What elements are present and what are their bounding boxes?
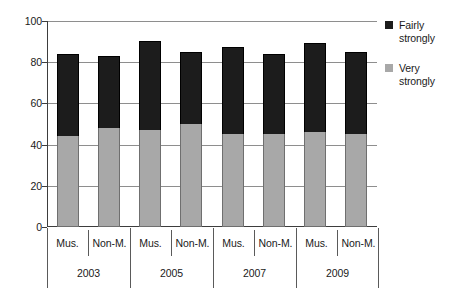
bar-2003-nonm[interactable] — [98, 56, 120, 227]
x-group-label-2003: 2003 — [47, 258, 130, 290]
bar-segment-very-strongly[interactable] — [263, 134, 285, 227]
x-separator-group — [213, 228, 214, 288]
chart-legend: Fairly strongly Very strongly — [385, 19, 463, 105]
bar-segment-very-strongly[interactable] — [98, 128, 120, 227]
bar-segment-fairly-strongly[interactable] — [180, 52, 202, 124]
bar-2009-mus[interactable] — [304, 43, 326, 227]
y-tick-label-100: 100 — [8, 16, 42, 26]
bar-segment-fairly-strongly[interactable] — [57, 54, 79, 136]
bar-segment-very-strongly[interactable] — [345, 134, 367, 227]
x-separator-group — [296, 228, 297, 288]
x-group-label-2009: 2009 — [296, 258, 379, 290]
y-tick-label-80: 80 — [8, 57, 42, 67]
legend-label-line2: strongly — [399, 32, 463, 45]
legend-item-fairly-strongly[interactable]: Fairly strongly — [385, 19, 463, 44]
bar-segment-fairly-strongly[interactable] — [222, 47, 244, 134]
x-axis: Mus. Non-M. Mus. Non-M. Mus. Non-M. Mus.… — [47, 228, 377, 290]
bars-layer — [47, 21, 377, 227]
legend-item-very-strongly[interactable]: Very strongly — [385, 62, 463, 87]
x-label-2003-nonm: Non-M. — [89, 228, 130, 258]
legend-label-line1: Very — [399, 62, 463, 75]
y-tick-label-20: 20 — [8, 181, 42, 191]
y-tick-label-40: 40 — [8, 140, 42, 150]
legend-swatch-icon — [385, 21, 393, 29]
x-label-2009-mus: Mus. — [296, 228, 337, 258]
bar-segment-very-strongly[interactable] — [180, 124, 202, 227]
bar-2009-nonm[interactable] — [345, 52, 367, 227]
bar-2005-mus[interactable] — [139, 41, 161, 227]
x-label-2003-mus: Mus. — [47, 228, 88, 258]
x-group-label-2007: 2007 — [213, 258, 296, 290]
x-axis-category-row: Mus. Non-M. Mus. Non-M. Mus. Non-M. Mus.… — [47, 228, 377, 258]
x-label-2007-mus: Mus. — [213, 228, 254, 258]
x-separator-group — [47, 228, 48, 288]
x-label-2005-mus: Mus. — [130, 228, 171, 258]
y-tick-label-0: 0 — [8, 222, 42, 232]
legend-label-line1: Fairly — [399, 19, 463, 32]
bar-2007-mus[interactable] — [222, 47, 244, 227]
x-separator-group — [130, 228, 131, 288]
bar-segment-very-strongly[interactable] — [222, 134, 244, 227]
y-tick-label-60: 60 — [8, 98, 42, 108]
bar-segment-fairly-strongly[interactable] — [304, 43, 326, 132]
x-label-2007-nonm: Non-M. — [255, 228, 296, 258]
bar-segment-fairly-strongly[interactable] — [98, 56, 120, 128]
legend-swatch-icon — [385, 64, 393, 72]
legend-label-line2: strongly — [399, 75, 463, 88]
x-label-2009-nonm: Non-M. — [338, 228, 379, 258]
bar-segment-very-strongly[interactable] — [57, 136, 79, 227]
x-axis-year-row: 2003 2005 2007 2009 — [47, 258, 377, 290]
stacked-bar-chart: 100 80 60 40 20 0 — [0, 0, 463, 294]
bar-2007-nonm[interactable] — [263, 54, 285, 227]
x-group-label-2005: 2005 — [130, 258, 213, 290]
x-separator-group — [378, 228, 379, 288]
bar-segment-fairly-strongly[interactable] — [345, 52, 367, 134]
x-label-2005-nonm: Non-M. — [172, 228, 213, 258]
bar-segment-fairly-strongly[interactable] — [139, 41, 161, 130]
bar-segment-very-strongly[interactable] — [139, 130, 161, 227]
bar-segment-fairly-strongly[interactable] — [263, 54, 285, 134]
bar-2003-mus[interactable] — [57, 54, 79, 227]
bar-segment-very-strongly[interactable] — [304, 132, 326, 227]
bar-2005-nonm[interactable] — [180, 52, 202, 227]
